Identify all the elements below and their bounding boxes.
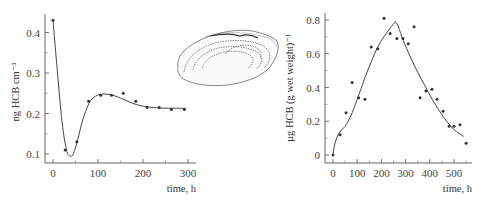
data-point [401,37,404,40]
data-point [170,108,173,111]
left-x-axis-label: time, h [167,183,197,194]
data-point [122,92,125,95]
y-tick-label: 0.6 [306,48,320,60]
y-tick-label: 0 [315,149,321,161]
data-point [75,140,78,143]
data-point [345,111,348,114]
y-tick-label: 0.2 [306,115,320,127]
left-x-ticks: 0100200300 [50,159,197,179]
data-point [413,25,416,28]
y-tick-label: 0.4 [26,27,40,39]
data-point [436,98,439,101]
data-point [448,125,451,128]
data-point [332,154,335,157]
data-point [430,88,433,91]
x-tick-label: 200 [373,167,390,179]
data-point [383,17,386,20]
data-point [419,96,422,99]
data-point [395,37,398,40]
y-tick-label: 0.2 [26,108,40,120]
data-point [134,100,137,103]
data-point [183,108,186,111]
data-point [87,100,90,103]
data-point [465,142,468,145]
data-point [407,42,410,45]
data-point [351,81,354,84]
x-tick-label: 0 [330,167,336,179]
y-tick-label: 0.8 [306,14,320,26]
data-point [442,110,445,113]
data-point [459,123,462,126]
data-point [146,106,149,109]
y-tick-label: 0.4 [306,82,320,94]
data-point [357,96,360,99]
data-point [99,94,102,97]
left-chart: 0.10.20.30.4 0100200300 ng HCB cm⁻³ time… [10,14,197,194]
right-x-axis-label: time, h [443,183,473,194]
x-tick-label: 500 [446,167,463,179]
right-fit-curve [333,22,464,155]
data-point [339,133,342,136]
left-y-axis-label: ng HCB cm⁻³ [10,63,21,122]
right-data-points [332,17,468,157]
x-tick-label: 200 [135,167,152,179]
x-tick-label: 100 [349,167,366,179]
right-x-ticks: 0100200300400500 [330,159,466,179]
x-tick-label: 300 [397,167,414,179]
x-tick-label: 100 [90,167,107,179]
data-point [389,32,392,35]
right-chart: 00.20.40.60.8 0100200300400500 µg HCB (g… [284,13,473,194]
y-tick-label: 0.1 [26,148,40,160]
right-y-ticks: 00.20.40.60.8 [306,14,329,161]
x-tick-label: 0 [50,167,56,179]
figure: 0.10.20.30.4 0100200300 ng HCB cm⁻³ time… [0,0,485,205]
data-point [424,89,427,92]
data-point [376,47,379,50]
data-point [363,98,366,101]
clam-shell-icon [178,30,279,85]
y-tick-label: 0.3 [26,67,40,79]
x-tick-label: 300 [180,167,197,179]
left-y-ticks: 0.10.20.30.4 [26,27,49,161]
left-fit-curve [53,20,186,156]
data-point [158,106,161,109]
data-point [64,148,67,151]
data-point [110,94,113,97]
data-point [453,125,456,128]
data-point [370,46,373,49]
left-data-points [52,19,186,152]
data-point [52,19,55,22]
x-tick-label: 400 [422,167,439,179]
right-y-axis-label: µg HCB (g wet weight)⁻¹ [284,34,296,142]
